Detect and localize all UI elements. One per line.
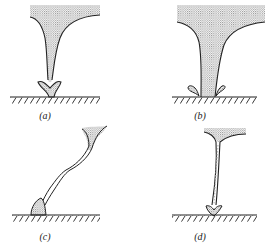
debris-base-c [31,198,46,215]
panel-c [12,126,107,222]
panel-label-a: (a) [30,110,60,121]
panel-d [172,128,257,222]
debris-right-b [216,86,225,96]
funnel-cloud-c [82,126,107,150]
funnel-cloud-b [177,5,265,97]
panel-a [10,5,100,104]
ground-hatch-c [12,216,100,222]
ground-hatch-d [172,216,257,222]
ground-hatch-b [172,98,257,104]
panel-label-b: (b) [185,110,215,121]
ground-hatch-a [10,98,100,104]
tornado-stages-diagram [0,0,271,248]
debris-left-b [188,86,199,96]
debris-cloud-a [38,81,61,97]
vortex-tube-c [41,146,92,205]
panel-label-d: (d) [185,231,215,242]
panel-b [172,5,265,104]
panel-label-c: (c) [30,231,60,242]
funnel-edge-right-d [216,134,246,205]
